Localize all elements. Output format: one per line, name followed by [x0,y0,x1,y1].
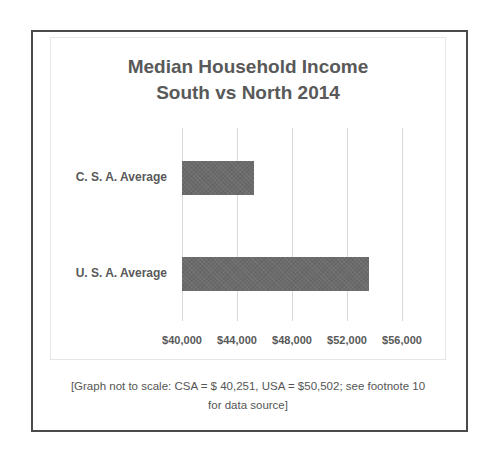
category-label: C. S. A. Average [76,170,167,184]
bar [182,161,254,195]
gridline [237,128,238,321]
x-tick-label: $40,000 [152,334,212,346]
chart-title-line-2: South vs North 2014 [50,80,446,106]
footnote: [Graph not to scale: CSA = $ 40,251, USA… [40,377,456,415]
chart-title-line-1: Median Household Income [50,54,446,80]
category-label: U. S. A. Average [76,266,167,280]
x-tick-label: $52,000 [317,334,377,346]
gridline [182,128,183,321]
gridline [402,128,403,321]
gridline [292,128,293,321]
bar [182,257,369,291]
footnote-line-1: [Graph not to scale: CSA = $ 40,251, USA… [40,377,456,396]
chart-title: Median Household Income South vs North 2… [50,54,446,106]
gridline [347,128,348,321]
x-tick-label: $48,000 [262,334,322,346]
footnote-line-2: for data source] [40,396,456,415]
x-tick-label: $44,000 [207,334,267,346]
x-tick-label: $56,000 [372,334,432,346]
